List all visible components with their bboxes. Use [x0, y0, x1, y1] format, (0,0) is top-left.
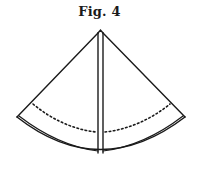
dotted-arc-left [33, 104, 96, 132]
figure: Fig. 4 [0, 0, 199, 171]
right-edge [103, 33, 185, 117]
dotted-arc-right [105, 104, 170, 132]
apex [98, 30, 103, 33]
sector-diagram [0, 0, 199, 171]
bottom-arc-outer [17, 117, 185, 150]
left-edge [17, 33, 98, 117]
